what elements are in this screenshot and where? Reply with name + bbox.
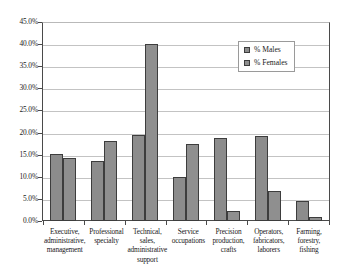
- x-axis-tick-mark: [166, 221, 167, 225]
- y-axis-tick-marks: [0, 22, 42, 221]
- x-axis-label-line: Precision: [209, 227, 247, 236]
- x-axis-label-line: administrative: [128, 245, 168, 254]
- bar-group: [166, 22, 207, 221]
- x-axis-category-label: Professionalspecialty: [86, 227, 126, 264]
- bar-females: [145, 44, 158, 221]
- bar-chart: 0.0%5.0%10.0%15.0%20.0%25.0%30.0%35.0%40…: [0, 0, 359, 278]
- bar-females: [186, 144, 199, 221]
- x-axis-label-line: Executive,: [44, 227, 85, 236]
- x-axis-tick-mark: [206, 221, 207, 225]
- x-axis-label-line: administrative,: [44, 236, 85, 245]
- x-axis-category-label: Technical,sales,administrativesupport: [127, 227, 169, 264]
- bar-males: [91, 161, 104, 221]
- legend-entry: % Females: [244, 59, 288, 67]
- x-axis-label-line: forestry,: [290, 236, 328, 245]
- x-axis-label-line: sales,: [128, 236, 168, 245]
- x-axis-tick-mark: [125, 221, 126, 225]
- bar-females: [227, 211, 240, 221]
- x-axis-label-line: Technical,: [128, 227, 168, 236]
- bar-males: [296, 201, 309, 221]
- x-axis-label-line: Service: [169, 227, 207, 236]
- legend-swatch-males: [244, 47, 250, 53]
- x-axis-label-line: fabricators,: [250, 236, 288, 245]
- x-axis-label-line: occupations: [169, 236, 207, 245]
- bar-males: [173, 177, 186, 221]
- x-axis-labels: Executive,administrative,managementProfe…: [43, 227, 329, 264]
- chart-legend: % Males% Females: [238, 41, 295, 72]
- x-axis-label-line: laborers: [250, 245, 288, 254]
- x-axis-tick-mark: [84, 221, 85, 225]
- x-axis-category-label: Operators,fabricators,laborers: [249, 227, 289, 264]
- x-axis-category-label: Serviceoccupations: [168, 227, 208, 264]
- x-axis-label-line: crafts: [209, 245, 247, 254]
- x-axis-category-label: Executive,administrative,management: [43, 227, 86, 264]
- x-axis-label-line: specialty: [87, 236, 125, 245]
- bar-males: [214, 138, 227, 221]
- x-axis-category-label: Farming,forestry,fishing: [289, 227, 329, 264]
- x-axis-tick-mark: [329, 221, 330, 225]
- bar-group: [43, 22, 84, 221]
- bar-group: [125, 22, 166, 221]
- x-axis-label-line: support: [128, 255, 168, 264]
- x-axis-label-line: management: [44, 245, 85, 254]
- bar-group: [84, 22, 125, 221]
- bar-males: [50, 154, 63, 221]
- x-axis-label-line: Farming,: [290, 227, 328, 236]
- x-axis-category-label: Precisionproduction,crafts: [208, 227, 248, 264]
- x-axis-label-line: fishing: [290, 245, 328, 254]
- bar-females: [63, 158, 76, 221]
- x-axis-label-line: Professional: [87, 227, 125, 236]
- legend-label: % Males: [254, 46, 281, 54]
- bar-females: [268, 191, 281, 221]
- legend-label: % Females: [254, 59, 288, 67]
- x-axis-tick-marks: [43, 221, 329, 226]
- legend-entry: % Males: [244, 46, 288, 54]
- x-axis-tick-mark: [247, 221, 248, 225]
- bar-males: [255, 136, 268, 221]
- x-axis-tick-mark: [288, 221, 289, 225]
- bar-females: [104, 141, 117, 221]
- x-axis-label-line: Operators,: [250, 227, 288, 236]
- y-axis-tick-mark: [38, 221, 42, 222]
- x-axis-tick-mark: [43, 221, 44, 225]
- x-axis-label-line: production,: [209, 236, 247, 245]
- legend-swatch-females: [244, 60, 250, 66]
- bar-males: [132, 135, 145, 221]
